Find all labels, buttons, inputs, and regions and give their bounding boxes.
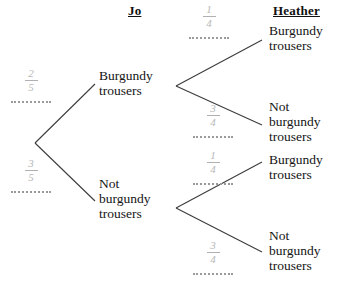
probability-jo-burgundy: 2 5 bbox=[8, 68, 54, 103]
probability-jo-not-burgundy: 3 5 bbox=[8, 158, 54, 193]
probability-heather-burgundy-2: 1 4 bbox=[190, 150, 236, 185]
probability-heather-not-burgundy-1: 3 4 bbox=[190, 103, 236, 138]
fraction-denominator: 4 bbox=[186, 18, 232, 30]
fraction-numerator: 2 bbox=[8, 68, 54, 79]
answer-dotted-line[interactable] bbox=[11, 185, 51, 193]
node-label-jo-not-burgundy: Not burgundy trousers bbox=[99, 176, 151, 221]
node-label-heather-burgundy-1: Burgundy trousers bbox=[269, 23, 323, 53]
fraction-numerator: 1 bbox=[186, 4, 232, 15]
node-label-heather-burgundy-2: Burgundy trousers bbox=[269, 152, 323, 182]
fraction-numerator: 1 bbox=[190, 150, 236, 161]
answer-dotted-line[interactable] bbox=[189, 31, 229, 39]
probability-heather-burgundy-1: 1 4 bbox=[186, 4, 232, 39]
node-label-jo-burgundy: Burgundy trousers bbox=[99, 68, 153, 98]
node-label-heather-not-burgundy-1: Not burgundy trousers bbox=[269, 99, 321, 144]
probability-heather-not-burgundy-2: 3 4 bbox=[190, 240, 236, 275]
answer-dotted-line[interactable] bbox=[193, 177, 233, 185]
header-heather: Heather bbox=[273, 3, 320, 19]
branch-heather-burgundy-1 bbox=[176, 40, 262, 86]
fraction-denominator: 4 bbox=[190, 164, 236, 176]
fraction-numerator: 3 bbox=[190, 240, 236, 251]
answer-dotted-line[interactable] bbox=[193, 130, 233, 138]
answer-dotted-line[interactable] bbox=[193, 267, 233, 275]
fraction-numerator: 3 bbox=[190, 103, 236, 114]
fraction-numerator: 3 bbox=[8, 158, 54, 169]
answer-dotted-line[interactable] bbox=[11, 95, 51, 103]
fraction-denominator: 5 bbox=[8, 172, 54, 184]
fraction-denominator: 5 bbox=[8, 82, 54, 94]
fraction-denominator: 4 bbox=[190, 254, 236, 266]
fraction-denominator: 4 bbox=[190, 117, 236, 129]
node-label-heather-not-burgundy-2: Not burgundy trousers bbox=[269, 228, 321, 273]
header-jo: Jo bbox=[128, 3, 141, 19]
probability-tree-diagram: Jo Heather 2 5 3 5 Burgundy trousers Not… bbox=[0, 0, 347, 289]
